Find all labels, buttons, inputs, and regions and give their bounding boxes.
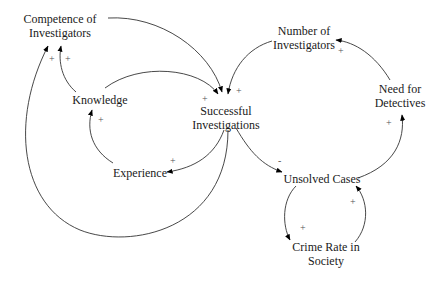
polarity-sign: + [98, 114, 104, 125]
node-label: Need for [368, 82, 432, 96]
link-competence-successful [108, 18, 222, 92]
causal-loop-arrows [0, 0, 438, 282]
link-unsolved-crime [285, 186, 296, 240]
link-number-successful [228, 41, 272, 94]
node-label: Competence of [10, 12, 110, 26]
polarity-sign: + [300, 222, 306, 233]
polarity-sign: - [278, 155, 281, 166]
node-experience: Experience [110, 166, 170, 180]
polarity-sign: + [65, 53, 71, 64]
node-label: Unsolved Cases [282, 172, 362, 186]
node-label: Successful [180, 104, 272, 118]
link-crime-unsolved [355, 186, 366, 242]
polarity-sign: + [386, 117, 392, 128]
node-label: Detectives [368, 96, 432, 110]
node-label: Society [290, 254, 362, 268]
node-competence-of-investigators: Competence of Investigators [10, 12, 110, 40]
node-label: Experience [110, 166, 170, 180]
node-crime-rate-in-society: Crime Rate in Society [290, 240, 362, 268]
polarity-sign: + [170, 155, 176, 166]
node-label: Crime Rate in [290, 240, 362, 254]
node-unsolved-cases: Unsolved Cases [282, 172, 362, 186]
polarity-sign: + [202, 93, 208, 104]
link-knowledge-successful [105, 71, 218, 94]
node-label: Investigations [180, 118, 272, 132]
node-label: Knowledge [60, 93, 140, 107]
polarity-sign: + [338, 45, 344, 56]
link-unsolved-need [358, 115, 402, 178]
polarity-sign: + [236, 85, 242, 96]
node-label: Investigators [270, 38, 338, 52]
link-need-number [336, 40, 390, 80]
node-label: Number of [270, 24, 338, 38]
polarity-sign: + [49, 53, 55, 64]
node-label: Investigators [10, 26, 110, 40]
node-need-for-detectives: Need for Detectives [368, 82, 432, 110]
polarity-sign: + [350, 196, 356, 207]
link-successful-unsolved [236, 128, 282, 172]
node-knowledge: Knowledge [60, 93, 140, 107]
node-number-of-investigators: Number of Investigators [270, 24, 338, 52]
link-successful-competence [26, 46, 228, 237]
node-successful-investigations: Successful Investigations [180, 104, 272, 132]
